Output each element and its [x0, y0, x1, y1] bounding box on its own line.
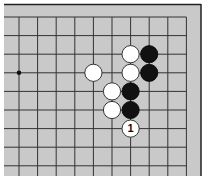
black-stone — [141, 64, 158, 81]
white-stone — [85, 64, 102, 81]
white-stone — [122, 46, 139, 63]
star-point-icon — [17, 71, 22, 76]
black-stone — [141, 46, 158, 63]
white-stone — [103, 83, 120, 100]
board-background — [4, 4, 201, 176]
move-number-label: 1 — [128, 122, 134, 134]
black-stone — [122, 83, 139, 100]
white-stone — [103, 101, 120, 118]
black-stone — [122, 101, 139, 118]
white-stone — [122, 64, 139, 81]
white-stone: 1 — [122, 120, 139, 137]
go-board: 1 — [0, 0, 204, 184]
star-points — [17, 71, 22, 76]
